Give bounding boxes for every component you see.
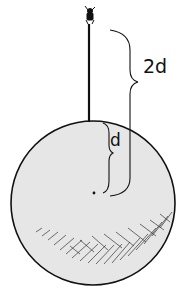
label-d: d <box>110 130 121 150</box>
sphere <box>11 121 175 285</box>
diagram-canvas <box>0 0 178 291</box>
label-2d: 2d <box>143 55 167 77</box>
figure-on-top-icon <box>85 6 95 24</box>
center-point <box>93 192 96 195</box>
